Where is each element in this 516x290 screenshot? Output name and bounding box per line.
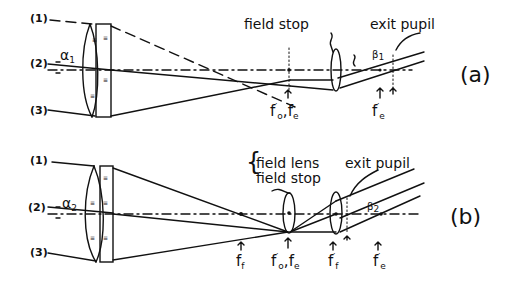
- ray-label-3-a: (3): [30, 104, 48, 117]
- panel-tag-b: (b): [450, 204, 481, 229]
- panel-b: ≡ ≡ ≡ ≡ ≡: [28, 148, 481, 271]
- diagram-canvas: ≡ ≡ ≡ ≡: [0, 0, 516, 290]
- focal-point-ff: [239, 212, 243, 216]
- ray-label-2-b: (2): [28, 201, 46, 214]
- svg-text:≡: ≡: [90, 199, 95, 206]
- svg-text:≡: ≡: [103, 234, 108, 241]
- exit-ray-1-b: [336, 169, 414, 201]
- field-lens-label: field lens: [256, 155, 319, 171]
- ray-2-a-mid: [111, 70, 290, 86]
- focus-label-fo-fe-b: f′o,fe: [271, 252, 300, 271]
- ray-label-1-b: (1): [30, 154, 48, 167]
- focus-label-fe-prime-a: f′e: [372, 102, 385, 121]
- focus-label-fo-fe-a: f′o,fe: [270, 102, 299, 121]
- ray-3-a-mid: [111, 80, 290, 116]
- panel-tag-a: (a): [460, 62, 491, 87]
- svg-text:≡: ≡: [92, 36, 97, 43]
- field-stop-label-b: field stop: [256, 170, 321, 186]
- ray-label-1-a: (1): [30, 12, 48, 25]
- focal-point-a: [287, 68, 291, 72]
- ray-1-b-in: [52, 162, 94, 166]
- focus-label-ff: ff: [236, 252, 245, 271]
- svg-text:≡: ≡: [103, 76, 108, 83]
- exit-pupil-label-b: exit pupil: [345, 155, 410, 171]
- angle-alpha-2: α2: [62, 195, 77, 213]
- focus-label-fe-prime-b: f′e: [373, 252, 386, 271]
- svg-text:≡: ≡: [90, 234, 95, 241]
- ray-1-a-in: [50, 20, 92, 24]
- ray-1-a-out: [111, 26, 295, 107]
- svg-text:≡: ≡: [103, 199, 108, 206]
- svg-text:≡: ≡: [103, 174, 108, 181]
- panel-a: ≡ ≡ ≡ ≡: [30, 12, 491, 121]
- ray-3-b-in: [48, 253, 96, 261]
- ray-2-a-in: [48, 64, 111, 70]
- ray-label-2-a: (2): [30, 57, 48, 70]
- exit-pupil-label-a: exit pupil: [370, 16, 435, 32]
- angle-alpha-1: α1: [60, 47, 75, 65]
- ray-label-3-b: (3): [30, 246, 48, 259]
- svg-text:≡: ≡: [103, 34, 108, 41]
- angle-beta-1: β1: [372, 49, 384, 62]
- focus-label-ff-prime: f′f: [328, 252, 339, 271]
- field-stop-label-a: field stop: [244, 16, 309, 32]
- ray-3-a-in: [48, 110, 95, 116]
- svg-text:≡: ≡: [90, 92, 95, 99]
- optics-diagram: ≡ ≡ ≡ ≡: [0, 0, 516, 290]
